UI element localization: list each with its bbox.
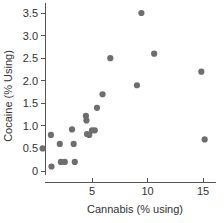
chart-canvas: 00.51.01.52.02.53.03.5 51015 Cannabis (%… — [0, 0, 224, 223]
data-point — [69, 126, 75, 132]
x-tick-label: 10 — [141, 185, 153, 197]
y-tick-label: 3.0 — [23, 30, 38, 42]
y-tick-label: 2.5 — [23, 52, 38, 64]
data-point — [99, 91, 105, 97]
data-point — [202, 136, 208, 142]
data-point — [83, 117, 89, 123]
data-point — [71, 141, 77, 147]
y-axis-title: Cocaine (% Using) — [2, 50, 14, 142]
y-tick-label: 3.5 — [23, 7, 38, 19]
data-point — [138, 10, 144, 16]
scatter-chart: 00.51.01.52.02.53.03.5 51015 Cannabis (%… — [0, 0, 224, 223]
data-point — [57, 141, 63, 147]
y-tick-label: 1.0 — [23, 120, 38, 132]
y-tick-label: 0.5 — [23, 142, 38, 154]
data-point — [40, 145, 46, 151]
data-points — [40, 10, 208, 170]
data-point — [151, 51, 157, 57]
y-tick-label: 0 — [32, 165, 38, 177]
y-tick-label: 1.5 — [23, 97, 38, 109]
data-point — [107, 55, 113, 61]
y-tick-label: 2.0 — [23, 75, 38, 87]
data-point — [134, 82, 140, 88]
data-point — [48, 163, 54, 169]
data-point — [94, 105, 100, 111]
x-tick-label: 15 — [197, 185, 209, 197]
x-tick-label: 5 — [89, 185, 95, 197]
data-point — [62, 159, 68, 165]
data-point — [48, 132, 54, 138]
data-point — [92, 127, 98, 133]
x-axis: 51015 — [45, 178, 216, 197]
x-axis-title: Cannabis (% using) — [87, 203, 183, 215]
data-point — [72, 159, 78, 165]
data-point — [198, 69, 204, 75]
